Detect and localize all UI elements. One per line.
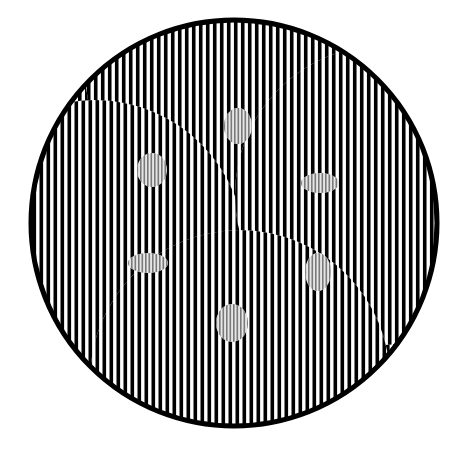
illusion-canvas — [0, 0, 462, 456]
swirl-regions — [0, 0, 462, 456]
